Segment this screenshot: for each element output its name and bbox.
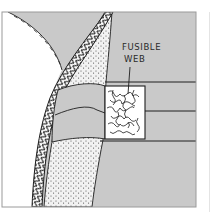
- fusible-web-label-line1: FUSIBLE: [122, 42, 161, 52]
- fusible-web-illustration: FUSIBLE WEB: [0, 0, 212, 221]
- fusible-web-label-line2: WEB: [124, 54, 145, 64]
